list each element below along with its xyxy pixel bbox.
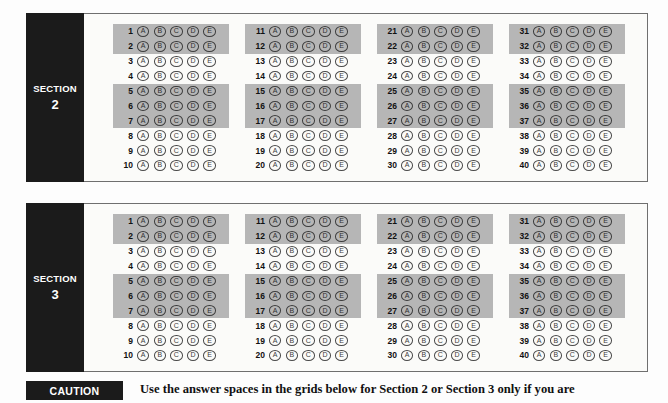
answer-bubble-b[interactable]: B <box>550 145 562 156</box>
answer-bubble-e[interactable]: E <box>203 246 215 257</box>
answer-bubble-c[interactable]: C <box>434 261 446 272</box>
answer-bubble-b[interactable]: B <box>550 86 562 97</box>
answer-bubble-b[interactable]: B <box>154 305 166 316</box>
answer-bubble-c[interactable]: C <box>302 86 314 97</box>
answer-bubble-c[interactable]: C <box>566 350 578 361</box>
answer-bubble-b[interactable]: B <box>550 26 562 37</box>
answer-bubble-e[interactable]: E <box>335 320 347 331</box>
answer-bubble-b[interactable]: B <box>550 56 562 67</box>
answer-bubble-b[interactable]: B <box>418 160 430 171</box>
answer-bubble-c[interactable]: C <box>302 41 314 52</box>
answer-bubble-b[interactable]: B <box>418 101 430 112</box>
answer-bubble-b[interactable]: B <box>418 41 430 52</box>
answer-bubble-e[interactable]: E <box>467 56 479 67</box>
answer-bubble-e[interactable]: E <box>203 291 215 302</box>
answer-bubble-d[interactable]: D <box>319 246 331 257</box>
answer-bubble-b[interactable]: B <box>154 41 166 52</box>
answer-bubble-c[interactable]: C <box>170 86 182 97</box>
answer-bubble-e[interactable]: E <box>203 101 215 112</box>
answer-bubble-d[interactable]: D <box>451 86 463 97</box>
answer-bubble-e[interactable]: E <box>599 41 611 52</box>
answer-bubble-a[interactable]: A <box>137 145 149 156</box>
answer-bubble-c[interactable]: C <box>566 145 578 156</box>
answer-bubble-a[interactable]: A <box>137 246 149 257</box>
answer-bubble-b[interactable]: B <box>286 246 298 257</box>
answer-bubble-c[interactable]: C <box>434 231 446 242</box>
answer-bubble-b[interactable]: B <box>418 130 430 141</box>
answer-bubble-a[interactable]: A <box>401 101 413 112</box>
answer-bubble-d[interactable]: D <box>583 320 595 331</box>
answer-bubble-a[interactable]: A <box>401 41 413 52</box>
answer-bubble-e[interactable]: E <box>599 26 611 37</box>
answer-bubble-c[interactable]: C <box>170 350 182 361</box>
answer-bubble-a[interactable]: A <box>401 276 413 287</box>
answer-bubble-b[interactable]: B <box>286 115 298 126</box>
answer-bubble-b[interactable]: B <box>154 261 166 272</box>
answer-bubble-c[interactable]: C <box>170 216 182 227</box>
answer-bubble-a[interactable]: A <box>269 305 281 316</box>
answer-bubble-e[interactable]: E <box>203 276 215 287</box>
answer-bubble-a[interactable]: A <box>533 320 545 331</box>
answer-bubble-a[interactable]: A <box>137 130 149 141</box>
answer-bubble-b[interactable]: B <box>550 41 562 52</box>
answer-bubble-b[interactable]: B <box>550 305 562 316</box>
answer-bubble-e[interactable]: E <box>467 101 479 112</box>
answer-bubble-b[interactable]: B <box>286 216 298 227</box>
answer-bubble-a[interactable]: A <box>137 160 149 171</box>
answer-bubble-d[interactable]: D <box>319 320 331 331</box>
answer-bubble-e[interactable]: E <box>203 320 215 331</box>
answer-bubble-b[interactable]: B <box>286 86 298 97</box>
answer-bubble-a[interactable]: A <box>401 86 413 97</box>
answer-bubble-e[interactable]: E <box>335 86 347 97</box>
answer-bubble-b[interactable]: B <box>286 101 298 112</box>
answer-bubble-b[interactable]: B <box>286 56 298 67</box>
answer-bubble-a[interactable]: A <box>533 41 545 52</box>
answer-bubble-d[interactable]: D <box>187 231 199 242</box>
answer-bubble-b[interactable]: B <box>550 335 562 346</box>
answer-bubble-a[interactable]: A <box>137 291 149 302</box>
answer-bubble-e[interactable]: E <box>467 216 479 227</box>
answer-bubble-b[interactable]: B <box>418 145 430 156</box>
answer-bubble-b[interactable]: B <box>154 231 166 242</box>
answer-bubble-d[interactable]: D <box>187 350 199 361</box>
answer-bubble-d[interactable]: D <box>583 350 595 361</box>
answer-bubble-e[interactable]: E <box>335 216 347 227</box>
answer-bubble-c[interactable]: C <box>434 26 446 37</box>
answer-bubble-e[interactable]: E <box>335 305 347 316</box>
answer-bubble-d[interactable]: D <box>319 130 331 141</box>
answer-bubble-a[interactable]: A <box>137 350 149 361</box>
answer-bubble-e[interactable]: E <box>599 56 611 67</box>
answer-bubble-a[interactable]: A <box>137 276 149 287</box>
answer-bubble-d[interactable]: D <box>187 115 199 126</box>
answer-bubble-e[interactable]: E <box>467 335 479 346</box>
answer-bubble-c[interactable]: C <box>302 216 314 227</box>
answer-bubble-e[interactable]: E <box>203 305 215 316</box>
answer-bubble-b[interactable]: B <box>286 160 298 171</box>
answer-bubble-a[interactable]: A <box>401 115 413 126</box>
answer-bubble-c[interactable]: C <box>170 231 182 242</box>
answer-bubble-d[interactable]: D <box>583 160 595 171</box>
answer-bubble-a[interactable]: A <box>137 101 149 112</box>
answer-bubble-c[interactable]: C <box>566 216 578 227</box>
answer-bubble-c[interactable]: C <box>566 26 578 37</box>
answer-bubble-c[interactable]: C <box>566 246 578 257</box>
answer-bubble-d[interactable]: D <box>319 26 331 37</box>
answer-bubble-e[interactable]: E <box>467 350 479 361</box>
answer-bubble-a[interactable]: A <box>269 160 281 171</box>
answer-bubble-b[interactable]: B <box>154 246 166 257</box>
answer-bubble-a[interactable]: A <box>533 231 545 242</box>
answer-bubble-a[interactable]: A <box>533 71 545 82</box>
answer-bubble-c[interactable]: C <box>434 320 446 331</box>
answer-bubble-b[interactable]: B <box>550 276 562 287</box>
answer-bubble-a[interactable]: A <box>269 246 281 257</box>
answer-bubble-c[interactable]: C <box>434 276 446 287</box>
answer-bubble-e[interactable]: E <box>467 261 479 272</box>
answer-bubble-d[interactable]: D <box>187 145 199 156</box>
answer-bubble-a[interactable]: A <box>533 115 545 126</box>
answer-bubble-b[interactable]: B <box>154 115 166 126</box>
answer-bubble-d[interactable]: D <box>583 335 595 346</box>
answer-bubble-d[interactable]: D <box>451 320 463 331</box>
answer-bubble-a[interactable]: A <box>137 56 149 67</box>
answer-bubble-c[interactable]: C <box>170 115 182 126</box>
answer-bubble-d[interactable]: D <box>583 216 595 227</box>
